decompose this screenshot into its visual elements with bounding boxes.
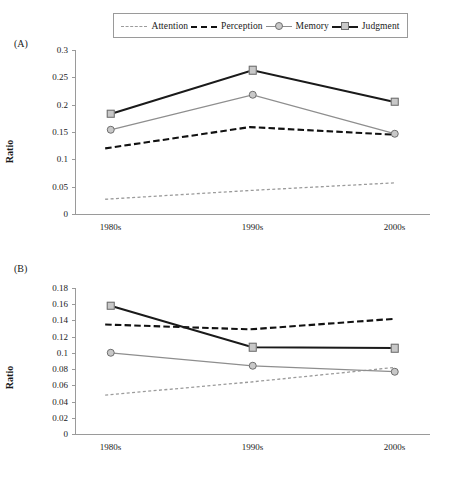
y-tick-label: 0.12 xyxy=(28,332,68,342)
legend-item-judgment: Judgment xyxy=(332,21,400,31)
series-layer xyxy=(75,50,430,214)
y-tick-label: 0.14 xyxy=(28,315,68,325)
y-tick xyxy=(72,369,75,370)
x-tick-label: 1990s xyxy=(242,222,264,232)
y-tick xyxy=(72,353,75,354)
legend-label: Memory xyxy=(296,21,329,31)
data-point-judgment-2000s xyxy=(390,344,399,353)
y-tick xyxy=(72,50,75,51)
series-line-attention xyxy=(105,183,394,199)
legend-marker-square-icon xyxy=(341,22,349,30)
legend-item-perception: Perception xyxy=(191,21,263,31)
legend-swatch-memory-icon xyxy=(266,21,292,31)
x-tick-label: 1980s xyxy=(100,222,122,232)
data-point-memory-1990s xyxy=(248,362,257,371)
y-tick-label: 0.1 xyxy=(28,348,68,358)
panel-a-plot-area: 00.050.10.150.20.250.31980s1990s2000s xyxy=(75,50,430,214)
data-point-memory-1980s xyxy=(106,126,115,135)
y-tick-label: 0.15 xyxy=(28,127,68,137)
x-tick-label: 1980s xyxy=(100,442,122,452)
legend-item-memory: Memory xyxy=(266,21,329,31)
series-line-memory xyxy=(111,95,395,134)
y-tick-label: 0.16 xyxy=(28,299,68,309)
y-tick-label: 0.06 xyxy=(28,380,68,390)
x-tick-label: 2000s xyxy=(384,442,406,452)
y-tick-label: 0.1 xyxy=(28,154,68,164)
y-tick xyxy=(72,337,75,338)
series-line-perception xyxy=(105,319,394,330)
x-tick-label: 1990s xyxy=(242,442,264,452)
y-tick xyxy=(72,159,75,160)
legend-item-attention: Attention xyxy=(121,21,188,31)
panel-a-tag: (A) xyxy=(14,38,28,49)
legend-marker-circle-icon xyxy=(275,22,283,30)
data-point-judgment-1980s xyxy=(106,302,115,311)
series-line-judgment xyxy=(111,306,395,348)
panel-b-y-axis-label: Ratio xyxy=(4,366,15,389)
panel-a: (A) Ratio 00.050.10.150.20.250.31980s199… xyxy=(0,30,465,255)
legend-line-icon xyxy=(121,26,147,27)
data-point-memory-1980s xyxy=(106,349,115,358)
y-tick xyxy=(72,418,75,419)
y-tick-label: 0.3 xyxy=(28,45,68,55)
panel-b-plot-area: 00.020.040.060.080.10.120.140.160.181980… xyxy=(75,288,430,434)
y-tick xyxy=(72,132,75,133)
y-tick-label: 0.02 xyxy=(28,413,68,423)
legend-swatch-perception-icon xyxy=(191,21,217,31)
y-tick xyxy=(72,304,75,305)
y-tick-label: 0.2 xyxy=(28,100,68,110)
figure: AttentionPerceptionMemoryJudgment (A) Ra… xyxy=(0,0,465,479)
y-tick xyxy=(72,187,75,188)
legend-label: Perception xyxy=(221,21,263,31)
y-axis-line xyxy=(75,50,76,214)
y-tick xyxy=(72,214,75,215)
y-tick xyxy=(72,385,75,386)
legend-swatch-judgment-icon xyxy=(332,21,358,31)
y-tick xyxy=(72,105,75,106)
data-point-judgment-2000s xyxy=(390,98,399,107)
data-point-judgment-1990s xyxy=(248,343,257,352)
y-tick-label: 0.18 xyxy=(28,283,68,293)
data-point-judgment-1990s xyxy=(248,66,257,75)
legend-label: Attention xyxy=(151,21,188,31)
legend-line-icon xyxy=(191,26,217,28)
x-axis-line xyxy=(75,434,430,435)
data-point-memory-2000s xyxy=(390,367,399,376)
data-point-judgment-1980s xyxy=(106,110,115,119)
x-tick-label: 2000s xyxy=(384,222,406,232)
data-point-memory-1990s xyxy=(248,91,257,100)
legend-swatch-attention-icon xyxy=(121,21,147,31)
y-tick-label: 0.05 xyxy=(28,182,68,192)
series-line-attention xyxy=(105,367,394,395)
y-tick xyxy=(72,288,75,289)
series-line-perception xyxy=(105,127,394,148)
panel-a-y-axis-label: Ratio xyxy=(4,140,15,163)
y-tick xyxy=(72,402,75,403)
y-tick-label: 0 xyxy=(28,429,68,439)
y-axis-line xyxy=(75,288,76,434)
y-tick-label: 0.25 xyxy=(28,72,68,82)
y-tick-label: 0 xyxy=(28,209,68,219)
y-tick-label: 0.04 xyxy=(28,397,68,407)
x-axis-line xyxy=(75,214,430,215)
y-tick xyxy=(72,77,75,78)
y-tick-label: 0.08 xyxy=(28,364,68,374)
y-tick xyxy=(72,320,75,321)
panel-b-tag: (B) xyxy=(14,263,27,274)
y-tick xyxy=(72,434,75,435)
legend-label: Judgment xyxy=(362,21,400,31)
data-point-memory-2000s xyxy=(390,129,399,138)
panel-b: (B) Ratio 00.020.040.060.080.10.120.140.… xyxy=(0,258,465,479)
